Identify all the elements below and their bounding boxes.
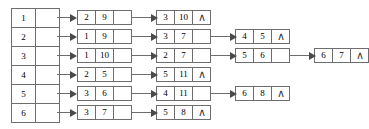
node-weight-cell: 11 bbox=[174, 86, 193, 101]
vertex-table: 1 2 3 4 5 6 bbox=[11, 8, 60, 123]
node-nil-cell: ∧ bbox=[192, 67, 211, 82]
node-nil-cell: ∧ bbox=[271, 29, 290, 44]
list-node: 110 bbox=[77, 48, 132, 63]
node-next-pointer-cell bbox=[192, 86, 211, 101]
list-node: 58∧ bbox=[156, 105, 211, 120]
nil-pointer-icon: ∧ bbox=[193, 10, 210, 25]
node-vertex-cell: 5 bbox=[235, 48, 254, 63]
node-weight-cell: 7 bbox=[174, 29, 193, 44]
node-nil-cell: ∧ bbox=[271, 86, 290, 101]
head-pointer-arrow-icon bbox=[57, 27, 77, 46]
table-row: 1 bbox=[12, 9, 60, 28]
next-pointer-arrow-icon bbox=[138, 8, 156, 27]
nil-pointer-icon: ∧ bbox=[272, 29, 289, 44]
list-node: 68∧ bbox=[235, 86, 290, 101]
list-node: 511∧ bbox=[156, 67, 211, 82]
list-node: 37 bbox=[77, 105, 132, 120]
vertex-pointer-cell bbox=[36, 28, 60, 47]
node-weight-cell: 9 bbox=[95, 10, 114, 25]
table-row: 4 bbox=[12, 66, 60, 85]
node-vertex-cell: 4 bbox=[235, 29, 254, 44]
node-weight-cell: 6 bbox=[95, 86, 114, 101]
nil-pointer-icon: ∧ bbox=[272, 86, 289, 101]
next-pointer-arrow-icon bbox=[217, 84, 235, 103]
node-vertex-cell: 5 bbox=[156, 105, 175, 120]
node-vertex-cell: 3 bbox=[77, 86, 96, 101]
node-vertex-cell: 4 bbox=[156, 86, 175, 101]
node-weight-cell: 5 bbox=[253, 29, 272, 44]
list-node: 56 bbox=[235, 48, 290, 63]
node-nil-cell: ∧ bbox=[350, 48, 369, 63]
vertex-index-cell: 1 bbox=[12, 9, 36, 28]
table-row: 6 bbox=[12, 104, 60, 123]
vertex-table-body: 1 2 3 4 5 6 bbox=[12, 9, 60, 123]
vertex-index-cell: 4 bbox=[12, 66, 36, 85]
node-vertex-cell: 3 bbox=[77, 105, 96, 120]
head-pointer-arrow-icon bbox=[57, 103, 77, 122]
list-node: 29 bbox=[77, 10, 132, 25]
next-pointer-arrow-icon bbox=[138, 65, 156, 84]
node-next-pointer-cell bbox=[113, 67, 132, 82]
node-next-pointer-cell bbox=[113, 29, 132, 44]
node-next-pointer-cell bbox=[113, 105, 132, 120]
nil-pointer-icon: ∧ bbox=[193, 67, 210, 82]
list-node: 19 bbox=[77, 29, 132, 44]
node-weight-cell: 10 bbox=[95, 48, 114, 63]
node-weight-cell: 8 bbox=[253, 86, 272, 101]
list-node: 310∧ bbox=[156, 10, 211, 25]
node-next-pointer-cell bbox=[113, 48, 132, 63]
adjacency-chain-row: 3641168∧ bbox=[57, 84, 290, 103]
list-node: 45∧ bbox=[235, 29, 290, 44]
node-vertex-cell: 1 bbox=[77, 29, 96, 44]
node-vertex-cell: 6 bbox=[235, 86, 254, 101]
head-pointer-arrow-icon bbox=[57, 84, 77, 103]
node-next-pointer-cell bbox=[192, 29, 211, 44]
node-next-pointer-cell bbox=[113, 10, 132, 25]
head-pointer-arrow-icon bbox=[57, 65, 77, 84]
vertex-pointer-cell bbox=[36, 66, 60, 85]
node-next-pointer-cell bbox=[113, 86, 132, 101]
table-row: 3 bbox=[12, 47, 60, 66]
adjacency-chain-row: 110275667∧ bbox=[57, 46, 369, 65]
node-vertex-cell: 5 bbox=[156, 67, 175, 82]
node-weight-cell: 5 bbox=[95, 67, 114, 82]
list-node: 411 bbox=[156, 86, 211, 101]
node-nil-cell: ∧ bbox=[192, 105, 211, 120]
next-pointer-arrow-icon bbox=[138, 27, 156, 46]
nil-pointer-icon: ∧ bbox=[351, 48, 368, 63]
node-weight-cell: 6 bbox=[253, 48, 272, 63]
node-vertex-cell: 2 bbox=[77, 67, 96, 82]
list-node: 67∧ bbox=[314, 48, 369, 63]
head-pointer-arrow-icon bbox=[57, 8, 77, 27]
node-vertex-cell: 3 bbox=[156, 29, 175, 44]
node-nil-cell: ∧ bbox=[192, 10, 211, 25]
vertex-pointer-cell bbox=[36, 9, 60, 28]
nil-pointer-icon: ∧ bbox=[193, 105, 210, 120]
next-pointer-arrow-icon bbox=[138, 46, 156, 65]
next-pointer-arrow-icon bbox=[296, 46, 314, 65]
vertex-index-cell: 5 bbox=[12, 85, 36, 104]
node-next-pointer-cell bbox=[271, 48, 290, 63]
vertex-pointer-cell bbox=[36, 104, 60, 123]
node-weight-cell: 7 bbox=[95, 105, 114, 120]
next-pointer-arrow-icon bbox=[217, 27, 235, 46]
node-vertex-cell: 2 bbox=[156, 48, 175, 63]
vertex-pointer-cell bbox=[36, 85, 60, 104]
adjacency-chain-row: 29310∧ bbox=[57, 8, 211, 27]
adjacency-chain-row: 193745∧ bbox=[57, 27, 290, 46]
vertex-pointer-cell bbox=[36, 47, 60, 66]
vertex-index-cell: 2 bbox=[12, 28, 36, 47]
next-pointer-arrow-icon bbox=[138, 103, 156, 122]
node-weight-cell: 11 bbox=[174, 67, 193, 82]
node-weight-cell: 7 bbox=[174, 48, 193, 63]
node-weight-cell: 10 bbox=[174, 10, 193, 25]
node-next-pointer-cell bbox=[192, 48, 211, 63]
list-node: 37 bbox=[156, 29, 211, 44]
node-vertex-cell: 3 bbox=[156, 10, 175, 25]
head-pointer-arrow-icon bbox=[57, 46, 77, 65]
adjacency-chain-row: 3758∧ bbox=[57, 103, 211, 122]
node-weight-cell: 9 bbox=[95, 29, 114, 44]
table-row: 2 bbox=[12, 28, 60, 47]
node-vertex-cell: 2 bbox=[77, 10, 96, 25]
